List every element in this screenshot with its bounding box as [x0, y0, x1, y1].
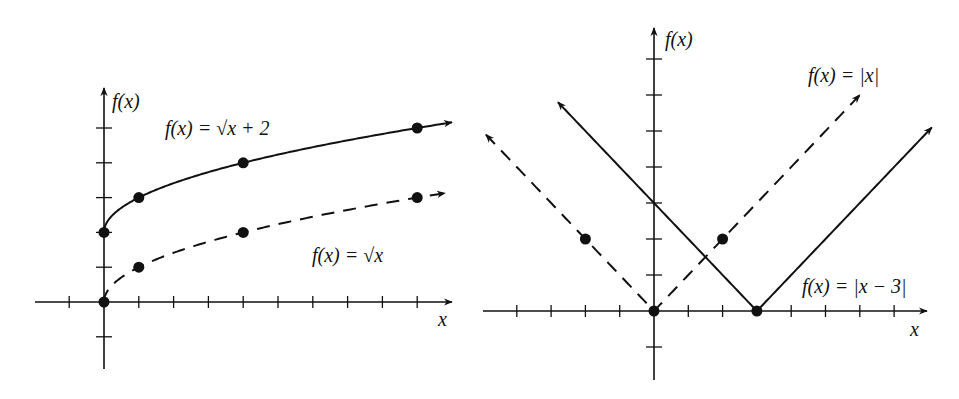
- left-y-axis-label: f(x): [112, 90, 140, 113]
- label-sqrt: f(x) = √x: [312, 244, 383, 267]
- data-point: [133, 192, 144, 203]
- right-chart-abs: f(x) x f(x) = |x| f(x) = |x − 3|: [483, 28, 932, 380]
- label-abs-x-minus-3: f(x) = |x − 3|: [802, 275, 907, 298]
- right-points: [580, 234, 763, 317]
- data-point: [717, 234, 728, 245]
- data-point: [238, 227, 249, 238]
- right-y-axis-label: f(x): [665, 28, 693, 51]
- left-points: [99, 123, 423, 308]
- label-sqrt-plus-2: f(x) = √x + 2: [165, 117, 270, 140]
- data-point: [649, 306, 660, 317]
- data-point: [133, 262, 144, 273]
- left-x-axis-label: x: [437, 308, 447, 330]
- left-curves: [104, 122, 452, 302]
- left-chart-sqrt: f(x) x f(x) = √x + 2 f(x) = √x: [35, 88, 452, 369]
- figure: f(x) x f(x) = √x + 2 f(x) = √x f(x) x f(…: [0, 0, 959, 399]
- label-abs-x: f(x) = |x|: [808, 64, 879, 87]
- curve-sqrt-x-2: [104, 122, 452, 232]
- data-point: [238, 157, 249, 168]
- data-point: [412, 123, 423, 134]
- data-point: [580, 234, 591, 245]
- figure-svg: f(x) x f(x) = √x + 2 f(x) = √x f(x) x f(…: [0, 0, 959, 399]
- data-point: [751, 306, 762, 317]
- data-point: [99, 227, 110, 238]
- data-point: [412, 192, 423, 203]
- curve-sqrt-x-: [104, 193, 445, 302]
- data-point: [99, 297, 110, 308]
- right-x-axis-label: x: [909, 318, 919, 340]
